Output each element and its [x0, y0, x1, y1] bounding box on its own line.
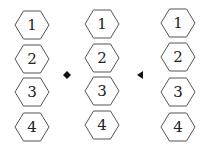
hexagon-label: 4 [97, 116, 107, 134]
figure-c: 1234 [161, 9, 195, 141]
figure-a: 1234 [15, 11, 49, 141]
hexagon-label: 1 [97, 15, 107, 33]
triangle-marker [137, 71, 143, 79]
hexagon-diagram: 123412341234 [0, 0, 206, 151]
hexagon-label: 2 [173, 48, 183, 66]
hexagon-label: 3 [173, 83, 183, 101]
figure-b: 1234 [85, 10, 119, 139]
hexagon-label: 3 [27, 83, 37, 101]
hexagon-label: 1 [27, 16, 37, 34]
hexagon-label: 1 [173, 14, 183, 32]
hexagon-label: 2 [97, 49, 107, 67]
hexagon-label: 2 [27, 50, 37, 68]
hexagon-label: 4 [27, 118, 37, 136]
hexagon-label: 4 [173, 118, 183, 136]
dot-marker [63, 71, 71, 79]
hexagon-label: 3 [97, 82, 107, 100]
